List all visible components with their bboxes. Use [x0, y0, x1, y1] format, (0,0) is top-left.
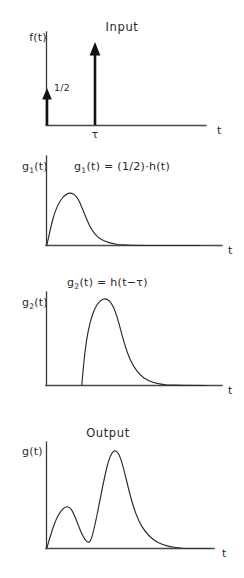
panel-g2-y-axis-label-rest: (t)	[34, 296, 48, 309]
panel-input-y-axis-label: f(t)	[29, 31, 47, 44]
curve-g1	[47, 193, 200, 245]
panel-input: Input f(t) 1/2 τ t	[0, 0, 244, 140]
panel-output-y-axis-label: g(t)	[22, 445, 43, 458]
panel-input-x-axis-label: t	[217, 124, 222, 137]
panel-g1-equation: g1(t) = (1/2)·h(t)	[74, 160, 170, 175]
panel-input-title: Input	[106, 20, 139, 34]
curve-output	[47, 451, 210, 549]
impulse-half	[42, 88, 52, 125]
panel-g2: g2(t) = h(t−τ) g2(t) t	[0, 268, 244, 396]
panel-output: Output g(t) t	[0, 418, 244, 578]
panel-g1-equation-base: g	[74, 160, 81, 173]
panel-g2-x-axis-label: t	[228, 384, 233, 396]
panel-g2-y-axis-label: g2(t)	[22, 296, 48, 311]
panel-g2-y-axis-label-base: g	[22, 296, 29, 309]
tau-tick-label: τ	[92, 128, 99, 140]
panel-g1: g1(t) g1(t) = (1/2)·h(t) t	[0, 148, 244, 268]
convolution-figure: Input f(t) 1/2 τ t g1(t) g1(t) = (1/2)·h…	[0, 0, 244, 578]
panel-g1-x-axis-label: t	[228, 244, 233, 257]
panel-g2-equation-rest: (t) = h(t−τ)	[79, 276, 147, 289]
panel-g1-y-axis-label-base: g	[22, 160, 29, 173]
impulse-tau	[90, 42, 101, 125]
panel-g2-equation-base: g	[67, 276, 74, 289]
curve-g2	[82, 299, 206, 386]
panel-g1-equation-rest: (t) = (1/2)·h(t)	[86, 160, 170, 173]
panel-output-title: Output	[86, 426, 130, 440]
panel-g1-y-axis-label: g1(t)	[22, 160, 48, 175]
panel-g2-equation: g2(t) = h(t−τ)	[67, 276, 148, 291]
panel-g1-y-axis-label-rest: (t)	[34, 160, 48, 173]
panel-output-x-axis-label: t	[222, 547, 227, 560]
impulse-half-label: 1/2	[54, 82, 70, 93]
